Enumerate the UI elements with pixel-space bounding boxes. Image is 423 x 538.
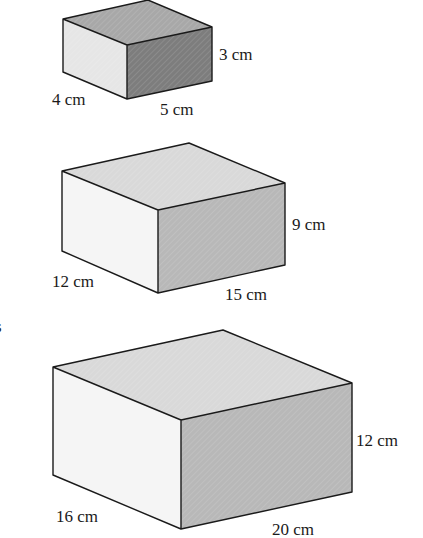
box-3-width-label: 20 cm [272,520,314,538]
box-1-width-label: 5 cm [160,100,194,119]
box-1-height-label: 3 cm [219,45,253,64]
box-3-height-label: 12 cm [356,431,398,450]
box-2: 9 cm 12 cm 15 cm [52,143,326,304]
box-2-depth-label: 12 cm [52,272,94,291]
margin-fragment: s [0,317,2,336]
box-2-width-label: 15 cm [225,285,267,304]
box-3: 12 cm 16 cm 20 cm [53,330,398,538]
box-3-depth-label: 16 cm [56,507,98,526]
cuboid-diagram: 3 cm 4 cm 5 cm 9 cm 12 cm 15 cm s 12 cm … [0,0,423,538]
box-1: 3 cm 4 cm 5 cm [52,0,253,119]
box-2-height-label: 9 cm [292,215,326,234]
box-1-depth-label: 4 cm [52,90,86,109]
